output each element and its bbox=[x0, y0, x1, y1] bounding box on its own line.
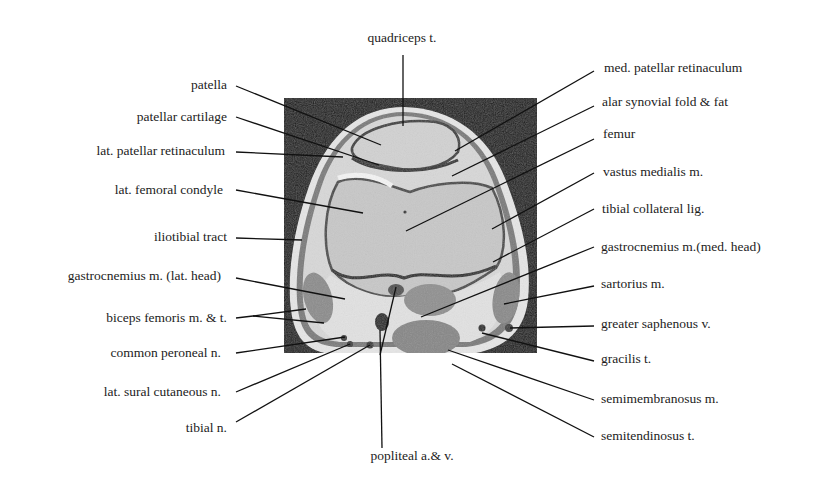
label-biceps-femoris: biceps femoris m. & t. bbox=[106, 310, 227, 326]
label-vastus-medialis: vastus medialis m. bbox=[603, 164, 703, 180]
leader-semitendinosus bbox=[452, 364, 594, 437]
label-popliteal-artery-vein: popliteal a.& v. bbox=[370, 448, 453, 464]
label-iliotibial-tract: iliotibial tract bbox=[154, 229, 227, 245]
label-patella: patella bbox=[191, 77, 227, 93]
label-sartorius: sartorius m. bbox=[601, 276, 665, 292]
label-gastrocnemius-lat-head: gastrocnemius m. (lat. head) bbox=[68, 268, 221, 284]
label-semitendinosus-t: semitendinosus t. bbox=[601, 428, 695, 444]
label-med-patellar-retinaculum: med. patellar retinaculum bbox=[604, 60, 742, 76]
label-common-peroneal-n: common peroneal n. bbox=[110, 345, 221, 361]
label-alar-synovial-fold: alar synovial fold & fat bbox=[602, 94, 728, 110]
label-tibial-collateral-lig: tibial collateral lig. bbox=[602, 201, 704, 217]
label-femur: femur bbox=[603, 126, 635, 142]
leader-semimembranosus bbox=[448, 350, 594, 400]
label-greater-saphenous-v: greater saphenous v. bbox=[601, 316, 711, 332]
gracilis-shape bbox=[479, 325, 486, 332]
label-tibial-n: tibial n. bbox=[186, 420, 227, 436]
label-quadriceps-tendon: quadriceps t. bbox=[368, 30, 437, 46]
med-gastrocnemius-shape bbox=[404, 284, 456, 316]
label-patellar-cartilage: patellar cartilage bbox=[137, 109, 227, 125]
label-lat-sural-cutaneous-n: lat. sural cutaneous n. bbox=[104, 384, 221, 400]
label-gastrocnemius-med-head: gastrocnemius m.(med. head) bbox=[601, 239, 761, 255]
label-semimembranosus: semimembranosus m. bbox=[601, 391, 719, 407]
label-lat-patellar-retinaculum: lat. patellar retinaculum bbox=[96, 143, 225, 159]
knee-mri-figure: quadriceps t. patella patellar cartilage… bbox=[0, 0, 822, 488]
label-lat-femoral-condyle: lat. femoral condyle bbox=[115, 182, 223, 198]
label-gracilis-t: gracilis t. bbox=[601, 351, 651, 367]
